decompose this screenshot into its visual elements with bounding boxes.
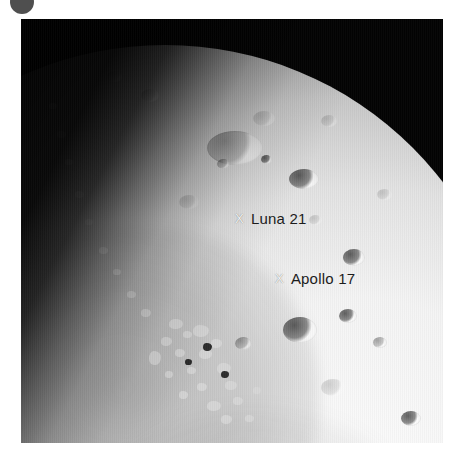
annotation-apollo-17: X Apollo 17 bbox=[275, 271, 355, 286]
annotation-luna-21: X Luna 21 bbox=[235, 211, 307, 226]
site-label-text: Luna 21 bbox=[251, 211, 307, 226]
site-marker-icon: X bbox=[235, 212, 244, 225]
mare-region bbox=[21, 227, 319, 443]
site-label-text: Apollo 17 bbox=[291, 271, 355, 286]
moon-photograph: X Luna 21 X Apollo 17 bbox=[21, 19, 443, 443]
corner-circle-badge bbox=[10, 0, 34, 14]
site-marker-icon: X bbox=[275, 272, 284, 285]
mare-region-secondary bbox=[95, 409, 417, 443]
